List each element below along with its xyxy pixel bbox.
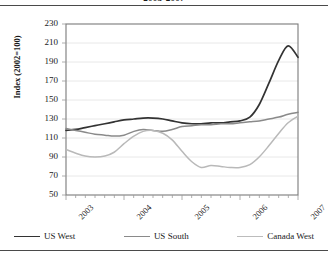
y-axis-tick-label: 210: [24, 38, 58, 47]
y-axis-tick-label: 230: [24, 19, 58, 28]
legend-label: US West: [44, 231, 75, 241]
legend-line-icon: [237, 236, 263, 237]
legend-line-icon: [14, 236, 40, 237]
y-axis-tick-label: 150: [24, 95, 58, 104]
y-axis-tick-label: 170: [24, 76, 58, 85]
series-line: [66, 46, 298, 131]
y-axis-tick-label: 110: [24, 133, 58, 142]
plot-frame: [66, 24, 298, 195]
legend-item[interactable]: US West: [14, 231, 75, 241]
chart-legend: US WestUS SouthCanada West: [8, 228, 320, 244]
y-axis-tick-label: 190: [24, 57, 58, 66]
y-axis-tick-label: 90: [24, 152, 58, 161]
y-axis-tick-label: 50: [24, 190, 58, 199]
y-axis-tick-label: 130: [24, 114, 58, 123]
legend-item[interactable]: US South: [124, 231, 189, 241]
footer-rule: [0, 250, 328, 251]
legend-line-icon: [124, 236, 150, 237]
figure: 2003-2007 Index (2002=100) 5070901101301…: [0, 0, 328, 257]
legend-label: Canada West: [267, 231, 314, 241]
y-axis-tick-label: 70: [24, 171, 58, 180]
legend-label: US South: [154, 231, 189, 241]
legend-item[interactable]: Canada West: [237, 231, 314, 241]
